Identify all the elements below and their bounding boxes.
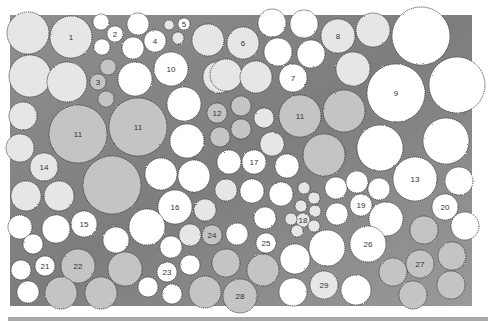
- plant: [308, 192, 320, 204]
- plant: [231, 119, 251, 139]
- plant-circle: [23, 234, 43, 254]
- plant: [260, 132, 284, 156]
- plant-circle: [368, 178, 390, 200]
- plant-11: 11: [49, 105, 107, 163]
- plant-circle: [341, 275, 371, 305]
- plant-circle: [309, 205, 321, 217]
- plant-circle: [346, 171, 368, 193]
- plant: [410, 216, 438, 244]
- plant: [23, 234, 43, 254]
- plant-circle: [240, 179, 264, 203]
- plant-circle: [83, 156, 141, 214]
- planting-plan-diagram: 1245310111167891211141716181913201524252…: [0, 0, 488, 321]
- plant-circle: [47, 62, 87, 102]
- plant: [127, 13, 149, 35]
- plant-12: 12: [207, 103, 227, 123]
- plant-29: 29: [310, 271, 338, 299]
- plant: [7, 12, 49, 54]
- plant: [264, 38, 292, 66]
- plant: [138, 277, 158, 297]
- plant-number: 8: [336, 32, 341, 41]
- plant: [297, 40, 325, 68]
- plant: [303, 134, 345, 176]
- plant: [280, 244, 310, 274]
- plant: [341, 275, 371, 305]
- plant-circle: [308, 192, 320, 204]
- plant: [100, 59, 116, 75]
- plant-circle: [357, 125, 403, 171]
- plant: [167, 87, 201, 121]
- plant-circle: [108, 252, 142, 286]
- plant: [93, 14, 109, 30]
- plant-circle: [93, 14, 109, 30]
- plant: [346, 171, 368, 193]
- plant-circle: [45, 277, 77, 309]
- plant-number: 25: [262, 239, 271, 248]
- plant-circle: [192, 24, 224, 56]
- plant-circle: [269, 182, 293, 206]
- plant: [210, 127, 230, 147]
- plant: [44, 181, 74, 211]
- plant-circle: [127, 13, 149, 35]
- plant-circle: [258, 9, 286, 37]
- plant: [240, 179, 264, 203]
- plant-4: 4: [144, 30, 166, 52]
- plant: [170, 124, 204, 158]
- plant-circle: [164, 20, 174, 30]
- plant: [379, 258, 407, 286]
- plant-number: 12: [213, 109, 222, 118]
- plant-10: 10: [154, 52, 188, 86]
- plant-circle: [179, 224, 201, 246]
- plant-9: 9: [367, 64, 425, 122]
- plant-circle: [210, 127, 230, 147]
- plant: [437, 271, 465, 299]
- plant-circle: [280, 244, 310, 274]
- plant-number: 7: [291, 74, 296, 83]
- plant: [9, 55, 51, 97]
- plant-circle: [295, 200, 307, 212]
- plant: [164, 20, 174, 30]
- plant-number: 28: [236, 292, 245, 301]
- plant-25: 25: [256, 233, 276, 253]
- plant: [423, 118, 469, 164]
- plant-circle: [6, 134, 34, 162]
- plant-number: 18: [299, 216, 308, 225]
- plant-circle: [9, 102, 37, 130]
- plant-number: 11: [134, 123, 143, 132]
- plant-11: 11: [279, 95, 321, 137]
- plant-number: 20: [441, 203, 450, 212]
- plant-circle: [138, 277, 158, 297]
- plant-5: 5: [178, 18, 190, 30]
- plant: [189, 276, 221, 308]
- plant-19: 19: [350, 194, 372, 216]
- plant-7: 7: [279, 64, 307, 92]
- plant: [122, 37, 144, 59]
- plant-circle: [260, 132, 284, 156]
- plant: [231, 96, 251, 116]
- plant-number: 24: [208, 231, 217, 240]
- plant-number: 27: [416, 260, 425, 269]
- plant: [258, 9, 286, 37]
- plant: [368, 178, 390, 200]
- plant-number: 15: [80, 220, 89, 229]
- plant: [291, 225, 303, 237]
- plant-1: 1: [50, 16, 92, 58]
- plant-number: 4: [153, 37, 158, 46]
- plant-circle: [279, 278, 307, 306]
- plant-circle: [212, 249, 240, 277]
- plant: [160, 236, 182, 258]
- plant-circle: [309, 230, 345, 266]
- plant: [172, 32, 184, 44]
- plant-circle: [247, 254, 279, 286]
- plant: [145, 158, 177, 190]
- plant-number: 13: [411, 175, 420, 184]
- plant-circle: [17, 281, 39, 303]
- plant: [47, 62, 87, 102]
- plant-number: 9: [394, 89, 399, 98]
- plant-circle: [336, 52, 370, 86]
- plant-number: 23: [163, 268, 172, 277]
- plant-circle: [437, 271, 465, 299]
- plant: [247, 254, 279, 286]
- plant-circle: [85, 277, 117, 309]
- plant: [445, 167, 473, 195]
